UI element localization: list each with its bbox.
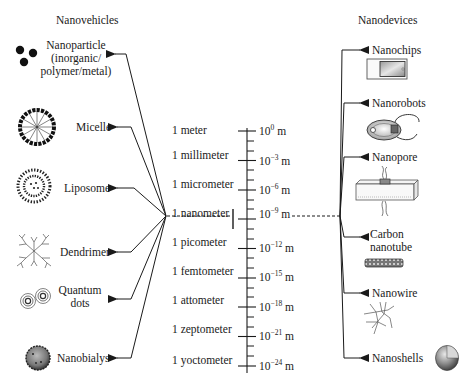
nanodevice-nanochips-label: Nanochips: [372, 44, 421, 57]
nanodevices-header: Nanodevices: [358, 14, 417, 27]
nanoshell-icon: [434, 344, 460, 372]
nanopore-icon: [354, 166, 420, 218]
nanochip-icon: [366, 58, 408, 80]
unit-name-micrometer: 1 micrometer: [172, 178, 234, 191]
unit-name-millimeter: 1 millimeter: [172, 149, 229, 162]
nanodevice-nanoshells-label: Nanoshells: [372, 352, 423, 365]
unit-value-6: 10−6 m: [259, 184, 290, 197]
nanoparticle-icon: [14, 44, 40, 70]
nanodevice-nanopore-label: Nanopore: [372, 151, 417, 164]
nanovehicle-dendrimer-label: Dendrimer: [60, 246, 110, 259]
unit-name-attometer: 1 attometer: [172, 294, 224, 307]
quantum-dots-icon: [18, 286, 54, 312]
scale-axis: [233, 128, 256, 373]
unit-value-12: 10−12 m: [259, 242, 294, 255]
nanovehicle-micelle-label: Micelle: [76, 121, 111, 134]
liposome-icon: [14, 166, 54, 206]
unit-value-9: 10−9 m: [259, 208, 290, 221]
nanovehicle-liposome-label: Liposome: [64, 182, 110, 195]
nanobialys-icon: [24, 344, 52, 372]
unit-name-meter: 1 meter: [172, 124, 207, 137]
unit-name-picometer: 1 picometer: [172, 236, 227, 249]
unit-value-15: 10−15 m: [259, 271, 294, 284]
unit-name-femtometer: 1 femtometer: [172, 265, 234, 278]
unit-name-zeptometer: 1 zeptometer: [172, 323, 232, 336]
nanodevice-carbon-nanotube-label: Carbon nanotube: [370, 228, 412, 254]
dendrimer-icon: [14, 232, 54, 270]
nanovehicle-nanoparticle-label: Nanoparticle (inorganic/ polymer/metal): [40, 39, 112, 78]
unit-value-24: 10−24 m: [259, 360, 294, 373]
nanovehicle-quantum-dots-label: Quantum dots: [58, 284, 102, 310]
nanovehicle-nanobialys-label: Nanobialys: [57, 352, 109, 365]
unit-name-yoctometer: 1 yoctometer: [172, 354, 232, 367]
nanodevice-nanorobots-label: Nanorobots: [372, 97, 426, 110]
left-connectors: [115, 54, 166, 358]
nanodevice-nanowire-label: Nanowire: [372, 287, 417, 300]
micelle-icon: [16, 106, 58, 148]
nanovehicles-header: Nanovehicles: [56, 14, 119, 27]
nanowire-icon: [362, 300, 398, 336]
unit-name-nanometer: 1 nanometer: [172, 207, 229, 220]
carbon-nanotube-icon: [364, 258, 404, 268]
unit-value-3: 10−3 m: [259, 155, 290, 168]
unit-value-18: 10−18 m: [259, 301, 294, 314]
nanorobot-icon: [364, 110, 422, 142]
unit-value-21: 10−21 m: [259, 330, 294, 343]
unit-value-0: 100 m: [259, 125, 286, 138]
